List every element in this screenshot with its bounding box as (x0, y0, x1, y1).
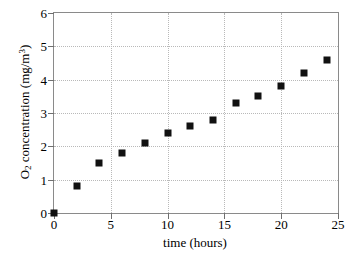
plot-area: 01234560510152025 (53, 12, 339, 214)
data-point-marker (51, 210, 58, 217)
y-gridline (54, 80, 338, 81)
data-point-marker (141, 140, 148, 147)
y-axis-tick-label: 0 (41, 207, 48, 220)
data-point-marker (73, 183, 80, 190)
y-axis-title-mid: concentration (mg/m (17, 54, 32, 166)
chart-figure: 01234560510152025 time (hours) O2 concen… (0, 0, 355, 262)
data-point-marker (164, 130, 171, 137)
y-axis-tick (48, 146, 54, 147)
x-axis-tick-label: 5 (108, 218, 115, 231)
y-axis-tick (48, 180, 54, 181)
x-axis-title: time (hours) (53, 236, 337, 250)
y-axis-title-lead: O (17, 170, 32, 179)
y-axis-tick-label: 4 (41, 73, 48, 86)
y-axis-tick-label: 1 (41, 173, 48, 186)
x-axis-tick-label: 0 (51, 218, 58, 231)
y-gridline (54, 113, 338, 114)
data-point-marker (255, 93, 262, 100)
data-point-marker (278, 83, 285, 90)
y-axis-title-superscript: 3 (17, 49, 27, 54)
y-gridline (54, 46, 338, 47)
y-gridline (54, 180, 338, 181)
data-point-marker (232, 100, 239, 107)
y-axis-tick-label: 5 (41, 40, 48, 53)
y-axis-title-subscript: 2 (23, 165, 33, 170)
data-point-marker (119, 150, 126, 157)
y-axis-tick (48, 80, 54, 81)
x-gridline (111, 13, 112, 213)
y-axis-tick (48, 13, 54, 14)
data-point-marker (187, 123, 194, 130)
y-gridline (54, 146, 338, 147)
y-axis-tick (48, 113, 54, 114)
x-gridline (281, 13, 282, 213)
data-point-marker (96, 160, 103, 167)
x-gridline (224, 13, 225, 213)
y-axis-tick-label: 2 (41, 140, 48, 153)
data-point-marker (323, 56, 330, 63)
y-axis-title-tail: ) (17, 45, 32, 49)
x-axis-tick-label: 20 (275, 218, 288, 231)
x-axis-tick-label: 15 (218, 218, 231, 231)
data-point-marker (300, 70, 307, 77)
x-gridline (168, 13, 169, 213)
y-axis-tick (48, 46, 54, 47)
y-axis-tick-label: 6 (41, 7, 48, 20)
data-point-marker (210, 116, 217, 123)
y-axis-tick-label: 3 (41, 107, 48, 120)
x-axis-tick-label: 10 (161, 218, 174, 231)
x-axis-tick-label: 25 (332, 218, 345, 231)
y-axis-title: O2 concentration (mg/m3) (14, 12, 30, 212)
